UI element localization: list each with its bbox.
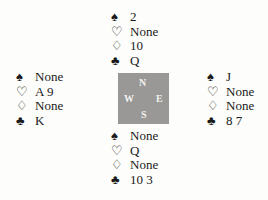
south-spades-cards: None bbox=[130, 129, 158, 144]
west-hand: ♠None ♡A 9 ♢None ♣K bbox=[16, 70, 63, 129]
compass-east: E bbox=[156, 93, 163, 104]
spade-icon: ♠ bbox=[111, 129, 130, 144]
north-spades-cards: 2 bbox=[130, 10, 137, 25]
heart-icon: ♡ bbox=[207, 85, 226, 100]
west-spades: ♠None bbox=[16, 70, 63, 85]
compass-west: W bbox=[124, 93, 134, 104]
north-hand: ♠2 ♡None ♢10 ♣Q bbox=[111, 10, 158, 69]
south-hand: ♠None ♡Q ♢None ♣10 3 bbox=[111, 129, 158, 188]
compass-south: S bbox=[141, 109, 147, 120]
west-hearts-cards: A 9 bbox=[35, 85, 53, 100]
west-diamonds-cards: None bbox=[35, 99, 63, 114]
south-hearts-cards: Q bbox=[130, 144, 139, 159]
diamond-icon: ♢ bbox=[16, 99, 35, 114]
south-spades: ♠None bbox=[111, 129, 158, 144]
west-hearts: ♡A 9 bbox=[16, 85, 63, 100]
south-diamonds: ♢None bbox=[111, 158, 158, 173]
north-diamonds: ♢10 bbox=[111, 39, 158, 54]
north-clubs: ♣Q bbox=[111, 54, 158, 69]
south-clubs-cards: 10 3 bbox=[130, 173, 153, 188]
east-spades-cards: J bbox=[226, 70, 231, 85]
east-hearts-cards: None bbox=[226, 85, 254, 100]
north-hearts-cards: None bbox=[130, 25, 158, 40]
club-icon: ♣ bbox=[207, 114, 226, 129]
spade-icon: ♠ bbox=[111, 10, 130, 25]
heart-icon: ♡ bbox=[16, 85, 35, 100]
east-spades: ♠J bbox=[207, 70, 254, 85]
west-clubs: ♣K bbox=[16, 114, 63, 129]
east-hand: ♠J ♡None ♢None ♣8 7 bbox=[207, 70, 254, 129]
compass-north: N bbox=[139, 77, 146, 88]
east-clubs: ♣8 7 bbox=[207, 114, 254, 129]
west-spades-cards: None bbox=[35, 70, 63, 85]
south-diamonds-cards: None bbox=[130, 158, 158, 173]
north-hearts: ♡None bbox=[111, 25, 158, 40]
diamond-icon: ♢ bbox=[207, 99, 226, 114]
heart-icon: ♡ bbox=[111, 144, 130, 159]
spade-icon: ♠ bbox=[16, 70, 35, 85]
north-diamonds-cards: 10 bbox=[130, 39, 143, 54]
west-clubs-cards: K bbox=[35, 114, 44, 129]
south-hearts: ♡Q bbox=[111, 144, 158, 159]
east-clubs-cards: 8 7 bbox=[226, 114, 242, 129]
club-icon: ♣ bbox=[16, 114, 35, 129]
east-diamonds: ♢None bbox=[207, 99, 254, 114]
club-icon: ♣ bbox=[111, 173, 130, 188]
heart-icon: ♡ bbox=[111, 25, 130, 40]
east-hearts: ♡None bbox=[207, 85, 254, 100]
spade-icon: ♠ bbox=[207, 70, 226, 85]
diamond-icon: ♢ bbox=[111, 39, 130, 54]
west-diamonds: ♢None bbox=[16, 99, 63, 114]
club-icon: ♣ bbox=[111, 54, 130, 69]
north-clubs-cards: Q bbox=[130, 54, 139, 69]
east-diamonds-cards: None bbox=[226, 99, 254, 114]
south-clubs: ♣10 3 bbox=[111, 173, 158, 188]
north-spades: ♠2 bbox=[111, 10, 158, 25]
diamond-icon: ♢ bbox=[111, 158, 130, 173]
compass-box: N W E S bbox=[118, 73, 169, 124]
